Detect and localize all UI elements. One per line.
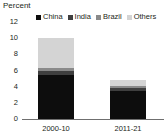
x-axis-line	[22, 119, 164, 120]
y-tick-10: 10	[10, 34, 18, 42]
legend-label-others: Others	[134, 13, 157, 21]
legend-item-brazil: Brazil	[96, 13, 122, 21]
y-tick-8: 8	[14, 50, 18, 58]
bar-2011-21	[110, 80, 146, 119]
square-marker-icon	[127, 15, 132, 20]
legend-label-india: India	[75, 13, 91, 21]
square-marker-icon	[96, 15, 101, 20]
y-tick-4: 4	[14, 83, 18, 91]
bar-2000-10	[38, 38, 74, 119]
segment-others	[38, 38, 74, 68]
y-axis-tick-labels: 12 10 8 6 4 2 0	[0, 22, 20, 119]
x-tick-2011-21: 2011-21	[115, 125, 142, 133]
y-tick-2: 2	[14, 99, 18, 107]
x-axis-tick-labels: 2000-10 2011-21	[22, 122, 164, 136]
legend-label-china: China	[43, 13, 63, 21]
y-tick-6: 6	[14, 67, 18, 75]
plot-area	[22, 22, 164, 119]
segment-china	[110, 91, 146, 119]
y-axis-title: Percent	[3, 1, 31, 10]
legend-item-china: China	[36, 13, 63, 21]
segment-china	[38, 75, 74, 119]
y-tick-0: 0	[14, 115, 18, 123]
stacked-bar-chart: Percent China India Brazil Others 12 10 …	[0, 0, 167, 139]
x-tick-2000-10: 2000-10	[42, 125, 70, 133]
legend-item-others: Others	[127, 13, 157, 21]
chart-legend: China India Brazil Others	[36, 13, 156, 21]
square-marker-icon	[68, 15, 73, 20]
square-marker-icon	[36, 15, 41, 20]
y-tick-12: 12	[10, 18, 18, 26]
legend-label-brazil: Brazil	[103, 13, 122, 21]
legend-item-india: India	[68, 13, 91, 21]
